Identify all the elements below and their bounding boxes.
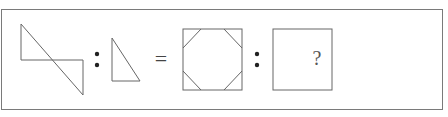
equals-sign: = bbox=[150, 48, 172, 70]
figure-2-triangle bbox=[112, 38, 140, 81]
figure-3-cut-corner-square bbox=[183, 29, 242, 90]
puzzle-figures bbox=[0, 0, 448, 117]
unknown-question-mark: ? bbox=[306, 47, 328, 69]
figure-1-z-triangles bbox=[21, 24, 83, 95]
ratio-colon-2 bbox=[255, 52, 259, 67]
ratio-colon-1 bbox=[95, 52, 99, 67]
